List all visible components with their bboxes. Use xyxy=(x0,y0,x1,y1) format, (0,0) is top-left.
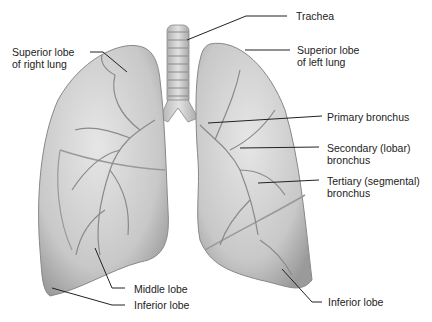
right-lung xyxy=(39,45,169,296)
label-secondary-bronchus: Secondary (lobar) xyxy=(327,142,410,154)
left-lung xyxy=(196,43,312,288)
label-superior-lobe-left-line2: of left lung xyxy=(297,56,345,68)
label-superior-lobe-right-line2: of right lung xyxy=(12,58,67,70)
label-tertiary-bronchus-line2: bronchus xyxy=(327,187,370,199)
label-inferior-lobe-right: Inferior lobe xyxy=(134,299,189,311)
label-superior-lobe-left: Superior lobe xyxy=(297,44,359,56)
label-inferior-lobe-left: Inferior lobe xyxy=(328,296,383,308)
label-trachea: Trachea xyxy=(296,10,334,22)
trachea xyxy=(160,25,198,122)
label-tertiary-bronchus: Tertiary (segmental) xyxy=(327,175,420,187)
label-superior-lobe-right: Superior lobe xyxy=(12,46,74,58)
label-primary-bronchus: Primary bronchus xyxy=(327,111,409,123)
lung-diagram: Trachea Superior lobe of right lung Supe… xyxy=(0,0,432,322)
label-middle-lobe: Middle lobe xyxy=(134,283,188,295)
label-secondary-bronchus-line2: bronchus xyxy=(327,154,370,166)
